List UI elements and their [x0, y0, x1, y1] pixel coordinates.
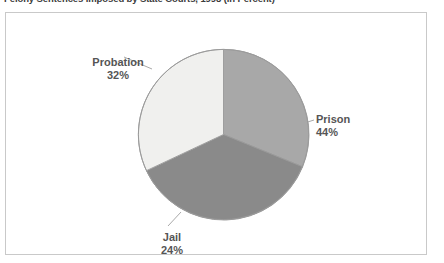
pie-label-probation-percent: 32%: [72, 69, 164, 82]
plot-frame: Probation 32% Prison 44% Jail 24%: [5, 12, 427, 255]
pie-label-probation: Probation 32%: [72, 56, 164, 82]
pie-label-jail-percent: 24%: [134, 244, 210, 257]
pie-label-jail-name: Jail: [163, 231, 181, 243]
pie-label-prison: Prison 44%: [316, 113, 392, 139]
pie-label-prison-name: Prison: [316, 113, 350, 125]
pie-label-jail: Jail 24%: [134, 231, 210, 257]
chart-title: Felony Sentences Imposed by State Courts…: [4, 0, 440, 6]
pie-label-probation-name: Probation: [92, 56, 143, 68]
pie-label-prison-percent: 44%: [316, 126, 392, 139]
